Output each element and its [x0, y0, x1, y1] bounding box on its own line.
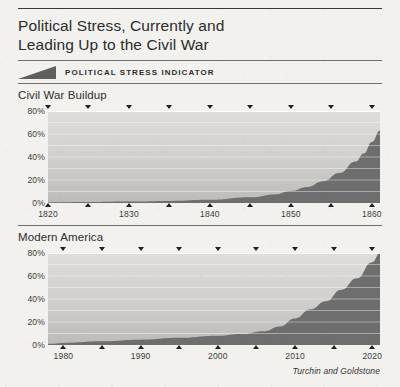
x-tick-major — [60, 345, 66, 349]
panel-1-x-axis: 18201830184018501860 — [48, 203, 380, 221]
panel-1-top-tick-row — [48, 104, 380, 111]
top-tick-marker — [331, 247, 337, 251]
top-tick-marker — [292, 247, 298, 251]
legend-wedge-icon — [18, 66, 56, 79]
y-tick-label: 20% — [27, 175, 45, 185]
top-tick-marker — [328, 105, 334, 109]
panel-2-top-tick-row — [48, 246, 380, 253]
top-tick-marker — [215, 247, 221, 251]
panel-modern-america: Modern America 0%20%40%60%80% 1980199020… — [18, 226, 382, 363]
figure-title: Political Stress, Currently and Leading … — [18, 9, 382, 60]
y-tick-label: 80% — [27, 248, 45, 258]
figure-title-line-1: Political Stress, Currently and — [18, 16, 382, 35]
top-tick-marker — [45, 105, 51, 109]
x-tick-major — [292, 345, 298, 349]
top-tick-marker — [207, 105, 213, 109]
x-tick-minor — [166, 203, 172, 207]
panel-2-title: Modern America — [18, 226, 382, 246]
top-tick-marker — [138, 247, 144, 251]
y-tick-label: 60% — [27, 129, 45, 139]
top-tick-marker — [247, 105, 253, 109]
x-tick-label: 1860 — [362, 209, 382, 219]
y-tick-label: 60% — [27, 271, 45, 281]
x-tick-label: 1990 — [131, 351, 151, 361]
x-tick-minor — [85, 203, 91, 207]
x-tick-minor — [331, 345, 337, 349]
panel-1-plot-area: 0%20%40%60%80% — [48, 111, 380, 203]
top-tick-marker — [99, 247, 105, 251]
panel-civil-war-buildup: Civil War Buildup 0%20%40%60%80% 1820183… — [18, 84, 382, 221]
top-tick-marker — [369, 105, 375, 109]
x-tick-major — [126, 203, 132, 207]
x-tick-minor — [99, 345, 105, 349]
x-tick-label: 2000 — [208, 351, 228, 361]
x-tick-major — [369, 345, 375, 349]
figure-sheet: Political Stress, Currently and Leading … — [18, 0, 382, 387]
x-tick-label: 1850 — [281, 209, 301, 219]
top-spacer — [18, 0, 382, 8]
x-tick-minor — [253, 345, 259, 349]
panel-2-x-axis: 19801990200020102020 — [48, 345, 380, 363]
y-tick-label: 20% — [27, 317, 45, 327]
x-tick-label: 1820 — [38, 209, 58, 219]
y-tick-label: 40% — [27, 152, 45, 162]
x-tick-label: 1840 — [200, 209, 220, 219]
panel-2-y-axis-labels: 0%20%40%60%80% — [18, 253, 45, 345]
top-tick-marker — [176, 247, 182, 251]
x-tick-major — [369, 203, 375, 207]
x-tick-major — [45, 203, 51, 207]
top-tick-marker — [126, 105, 132, 109]
x-tick-label: 1980 — [54, 351, 74, 361]
y-tick-label: 40% — [27, 294, 45, 304]
x-tick-major — [215, 345, 221, 349]
panel-1-plot — [48, 111, 380, 203]
figure-title-line-2: Leading Up to the Civil War — [18, 35, 382, 54]
top-tick-marker — [253, 247, 259, 251]
panel-1-y-axis-labels: 0%20%40%60%80% — [18, 111, 45, 203]
x-tick-minor — [328, 203, 334, 207]
top-tick-marker — [60, 247, 66, 251]
x-tick-minor — [176, 345, 182, 349]
panel-1-title: Civil War Buildup — [18, 84, 382, 104]
top-tick-marker — [85, 105, 91, 109]
x-tick-major — [138, 345, 144, 349]
x-tick-label: 1830 — [119, 209, 139, 219]
source-attribution: Turchin and Goldstone — [18, 363, 382, 376]
x-tick-minor — [247, 203, 253, 207]
legend: POLITICAL STRESS INDICATOR — [18, 61, 382, 83]
x-tick-label: 2010 — [285, 351, 305, 361]
panel-2-plot-area: 0%20%40%60%80% — [48, 253, 380, 345]
x-tick-major — [207, 203, 213, 207]
panel-2-plot — [48, 253, 380, 345]
y-tick-label: 80% — [27, 106, 45, 116]
panel-1-area-chart — [48, 111, 380, 203]
panel-2-area-chart — [48, 253, 380, 345]
y-tick-label: 0% — [32, 198, 45, 208]
y-tick-label: 0% — [32, 340, 45, 350]
x-tick-major — [288, 203, 294, 207]
x-tick-label: 2020 — [362, 351, 382, 361]
top-tick-marker — [369, 247, 375, 251]
top-tick-marker — [288, 105, 294, 109]
top-tick-marker — [166, 105, 172, 109]
legend-label: POLITICAL STRESS INDICATOR — [65, 68, 215, 77]
